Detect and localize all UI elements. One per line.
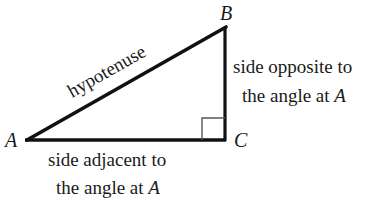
hypotenuse-line <box>27 27 226 140</box>
vertex-label-c: C <box>234 129 248 151</box>
opposite-side-label-line1: side opposite to <box>233 56 352 77</box>
right-triangle-diagram: A B C hypotenuse side opposite to the an… <box>0 0 390 211</box>
opposite-label-var: A <box>332 85 346 106</box>
vertex-label-b: B <box>220 2 232 24</box>
right-angle-marker <box>202 118 225 140</box>
opposite-label-prefix: the angle at <box>242 85 334 106</box>
adjacent-label-var: A <box>146 177 160 198</box>
vertex-label-a: A <box>3 129 18 151</box>
adjacent-side-label-line1: side adjacent to <box>48 149 166 170</box>
opposite-side-label-line2: the angle at A <box>242 85 346 106</box>
hypotenuse-label: hypotenuse <box>64 40 150 101</box>
adjacent-side-label-line2: the angle at A <box>56 177 160 198</box>
adjacent-label-prefix: the angle at <box>56 177 148 198</box>
